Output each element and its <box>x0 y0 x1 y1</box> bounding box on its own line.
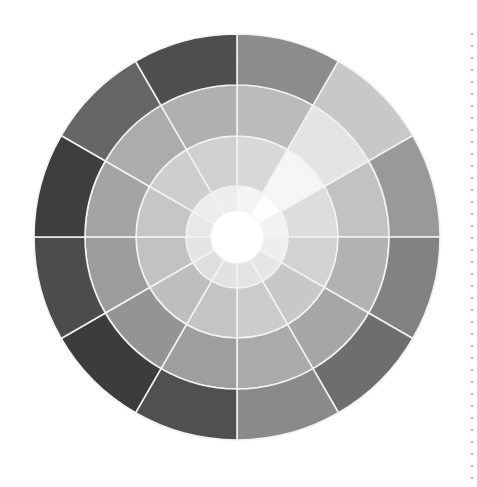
grayscale-color-wheel <box>0 0 477 487</box>
wheel-center-hub <box>211 211 263 263</box>
dotted-divider <box>471 28 473 487</box>
